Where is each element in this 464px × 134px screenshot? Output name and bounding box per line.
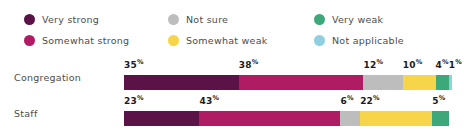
legend-swatch-not-applicable-icon xyxy=(314,35,325,46)
bar-segment-value: 10% xyxy=(403,60,423,70)
data-label-layer: 35%38%12%10%4%1% xyxy=(124,58,452,75)
legend-swatch-very-weak-icon xyxy=(314,14,325,25)
bar-segment-value-number: 43 xyxy=(199,96,212,106)
chart-bar-area: 23%43%6%22%5% xyxy=(124,94,452,130)
bar-segment-value: 4% xyxy=(436,60,449,70)
bar-segment-value-number: 23 xyxy=(124,96,137,106)
percent-sign: % xyxy=(212,94,219,102)
bar-segment[interactable] xyxy=(199,111,340,126)
bar-segment[interactable] xyxy=(124,111,199,126)
bar-segment-value: 6% xyxy=(340,96,353,106)
bar-segment-value-number: 10 xyxy=(403,60,416,70)
bar-segment-value-number: 35 xyxy=(124,60,137,70)
legend-swatch-somewhat-strong-icon xyxy=(24,35,35,46)
chart-row-label: Congregation xyxy=(14,72,81,83)
stacked-bar xyxy=(124,111,452,126)
bar-segment-value: 12% xyxy=(363,60,383,70)
bar-segment[interactable] xyxy=(340,111,360,126)
percent-sign: % xyxy=(455,58,462,66)
legend-item-label: Somewhat weak xyxy=(186,36,268,46)
legend-item-label: Very weak xyxy=(332,15,383,25)
percent-sign: % xyxy=(416,58,423,66)
bar-segment[interactable] xyxy=(436,75,449,90)
percent-sign: % xyxy=(373,94,380,102)
legend-item-very-strong[interactable]: Very strong xyxy=(24,14,168,25)
legend-item-very-weak[interactable]: Very weak xyxy=(314,14,444,25)
bar-segment-value: 22% xyxy=(360,96,380,106)
legend-item-somewhat-weak[interactable]: Somewhat weak xyxy=(168,35,314,46)
legend-swatch-not-sure-icon xyxy=(168,14,179,25)
stacked-bar xyxy=(124,75,452,90)
bar-segment-value: 38% xyxy=(239,60,259,70)
percent-sign: % xyxy=(137,58,144,66)
legend-item-label: Very strong xyxy=(42,15,99,25)
chart-plot-area: Congregation35%38%12%10%4%1%Staff23%43%6… xyxy=(0,58,464,130)
percent-sign: % xyxy=(376,58,383,66)
bar-segment[interactable] xyxy=(239,75,364,90)
legend-swatch-very-strong-icon xyxy=(24,14,35,25)
stacked-bar-chart: Very strongNot sureVery weakSomewhat str… xyxy=(0,0,464,134)
bar-segment-value: 43% xyxy=(199,96,219,106)
bar-segment-value-number: 22 xyxy=(360,96,373,106)
bar-segment-value: 1% xyxy=(449,60,462,70)
percent-sign: % xyxy=(439,94,446,102)
chart-legend: Very strongNot sureVery weakSomewhat str… xyxy=(24,9,444,51)
bar-segment[interactable] xyxy=(449,75,452,90)
legend-item-label: Not applicable xyxy=(332,36,404,46)
chart-row-label: Staff xyxy=(14,108,38,119)
bar-segment-value-number: 12 xyxy=(363,60,376,70)
chart-row: Staff23%43%6%22%5% xyxy=(0,94,464,130)
bar-segment-value: 35% xyxy=(124,60,144,70)
bar-segment-value: 5% xyxy=(432,96,445,106)
legend-item-label: Not sure xyxy=(186,15,228,25)
bar-segment[interactable] xyxy=(360,111,432,126)
legend-swatch-somewhat-weak-icon xyxy=(168,35,179,46)
percent-sign: % xyxy=(137,94,144,102)
percent-sign: % xyxy=(347,94,354,102)
bar-segment-value-number: 38 xyxy=(239,60,252,70)
percent-sign: % xyxy=(252,58,259,66)
legend-item-label: Somewhat strong xyxy=(42,36,129,46)
bar-segment[interactable] xyxy=(403,75,436,90)
bar-segment-value: 23% xyxy=(124,96,144,106)
data-label-layer: 23%43%6%22%5% xyxy=(124,94,452,111)
legend-item-somewhat-strong[interactable]: Somewhat strong xyxy=(24,35,168,46)
bar-segment[interactable] xyxy=(124,75,239,90)
legend-item-not-sure[interactable]: Not sure xyxy=(168,14,314,25)
chart-row: Congregation35%38%12%10%4%1% xyxy=(0,58,464,94)
bar-segment[interactable] xyxy=(363,75,402,90)
legend-item-not-applicable[interactable]: Not applicable xyxy=(314,35,444,46)
bar-segment[interactable] xyxy=(432,111,448,126)
chart-bar-area: 35%38%12%10%4%1% xyxy=(124,58,452,94)
